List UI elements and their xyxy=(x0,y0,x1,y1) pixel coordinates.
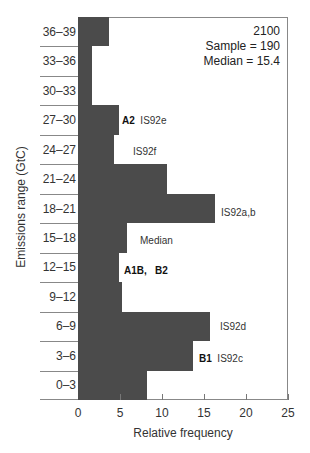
y-tick-label: 18–21 xyxy=(36,202,76,216)
info-median: Median = 15.4 xyxy=(160,54,280,69)
row-separator xyxy=(40,371,78,372)
bar xyxy=(78,17,109,46)
y-tick-label: 0–3 xyxy=(36,378,76,392)
x-tick xyxy=(204,394,205,400)
bar xyxy=(78,312,210,341)
bar xyxy=(78,194,215,223)
bar xyxy=(78,253,119,282)
bar xyxy=(78,223,127,253)
row-separator xyxy=(40,164,78,165)
x-tick xyxy=(288,394,289,400)
info-sample: Sample = 190 xyxy=(160,39,280,54)
row-separator xyxy=(40,312,78,313)
bar xyxy=(78,282,122,312)
x-tick-label: 25 xyxy=(273,406,303,420)
x-tick-label: 15 xyxy=(189,406,219,420)
annotation-a1b-b2: A1B, B2 xyxy=(124,265,168,277)
bar xyxy=(78,341,193,371)
y-tick-label: 3–6 xyxy=(36,349,76,363)
bar xyxy=(78,135,114,164)
info-year: 2100 xyxy=(160,24,280,39)
row-separator xyxy=(40,46,78,47)
x-tick xyxy=(162,394,163,400)
x-axis-title: Relative frequency xyxy=(118,426,248,440)
y-tick-label: 15–18 xyxy=(36,231,76,245)
y-tick-label: 24–27 xyxy=(36,143,76,157)
y-tick-label: 6–9 xyxy=(36,319,76,333)
x-tick xyxy=(246,394,247,400)
annotation-b1-is92c: B1 IS92c xyxy=(199,353,243,365)
x-tick-label: 10 xyxy=(147,406,177,420)
annotation-is92d: IS92d xyxy=(220,321,246,333)
row-separator xyxy=(40,194,78,195)
annotation-is92f: IS92f xyxy=(133,146,156,158)
row-separator xyxy=(40,105,78,106)
y-tick-label: 27–30 xyxy=(36,113,76,127)
y-tick-label: 30–33 xyxy=(36,84,76,98)
bar xyxy=(78,46,92,76)
row-separator xyxy=(40,76,78,77)
annotation-median: Median xyxy=(140,235,173,247)
y-tick-label: 9–12 xyxy=(36,290,76,304)
x-tick-label: 20 xyxy=(231,406,261,420)
row-separator xyxy=(40,282,78,283)
bar xyxy=(78,105,119,135)
y-axis-title: Emissions range (GtC) xyxy=(14,132,28,282)
bar xyxy=(78,371,147,400)
bar xyxy=(78,76,92,105)
x-tick xyxy=(120,394,121,400)
row-separator xyxy=(40,341,78,342)
bar xyxy=(78,164,167,194)
y-tick-label: 21–24 xyxy=(36,172,76,186)
x-tick-label: 0 xyxy=(63,406,93,420)
y-tick-label: 12–15 xyxy=(36,260,76,274)
x-tick-label: 5 xyxy=(105,406,135,420)
row-separator xyxy=(40,253,78,254)
row-separator xyxy=(40,135,78,136)
row-separator xyxy=(40,223,78,224)
annotation-is92ab: IS92a,b xyxy=(221,207,255,219)
y-tick-label: 33–36 xyxy=(36,54,76,68)
annotation-a2-is92e: A2 IS92e xyxy=(122,115,167,127)
y-tick-label: 36–39 xyxy=(36,25,76,39)
